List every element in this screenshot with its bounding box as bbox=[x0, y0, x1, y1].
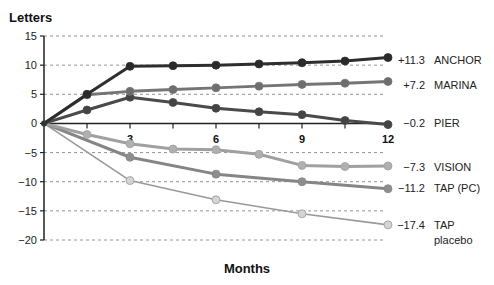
x-axis-title: Months bbox=[224, 261, 270, 276]
data-point bbox=[169, 98, 177, 106]
x-tick-label: 9 bbox=[299, 133, 305, 145]
data-point bbox=[126, 62, 134, 70]
data-point bbox=[384, 121, 392, 129]
data-point bbox=[126, 153, 134, 161]
series-marina bbox=[44, 77, 392, 123]
data-point bbox=[169, 86, 177, 94]
data-point bbox=[298, 161, 306, 169]
x-tick-label: 12 bbox=[382, 133, 394, 145]
data-point bbox=[255, 82, 263, 90]
data-point bbox=[83, 131, 91, 139]
series-end-value: −0.2 bbox=[403, 117, 425, 129]
series-end-value: −7.3 bbox=[403, 161, 425, 173]
y-tick-label: −15 bbox=[18, 205, 37, 217]
series-name-label: MARINA bbox=[434, 79, 477, 91]
data-point bbox=[341, 163, 349, 171]
data-point bbox=[298, 59, 306, 67]
x-tick-label: 6 bbox=[213, 133, 219, 145]
data-point bbox=[384, 77, 392, 85]
data-point bbox=[83, 106, 91, 114]
series-name-label: TAP (PC) bbox=[434, 182, 480, 194]
data-point bbox=[255, 60, 263, 68]
data-point bbox=[341, 117, 349, 125]
series-name-label: PIER bbox=[434, 117, 460, 129]
data-point bbox=[298, 210, 306, 218]
data-point bbox=[384, 185, 392, 193]
data-point bbox=[212, 84, 220, 92]
origin-point bbox=[41, 120, 47, 126]
y-tick-label: 15 bbox=[25, 30, 37, 42]
y-tick-label: −5 bbox=[24, 147, 37, 159]
data-point bbox=[384, 162, 392, 170]
data-point bbox=[212, 104, 220, 112]
series-end-value: −11.2 bbox=[398, 182, 425, 194]
series-name-label: TAP bbox=[434, 219, 455, 231]
y-tick-label: 10 bbox=[25, 59, 37, 71]
y-axis-ticks: 151050−5−10−15−20 bbox=[18, 30, 44, 246]
series-vision bbox=[44, 123, 392, 170]
data-point bbox=[298, 178, 306, 186]
data-point bbox=[126, 177, 134, 185]
y-tick-label: −10 bbox=[18, 176, 37, 188]
series-end-value: +7.2 bbox=[403, 79, 425, 91]
data-point bbox=[384, 54, 392, 62]
series-labels: +11.3ANCHOR+7.2MARINA−0.2PIER−7.3VISION−… bbox=[397, 54, 482, 246]
y-axis-title: Letters bbox=[9, 10, 52, 25]
series-name-label: VISION bbox=[434, 161, 471, 173]
series-end-value: −17.4 bbox=[397, 219, 425, 231]
data-point bbox=[212, 146, 220, 154]
data-point bbox=[83, 90, 91, 98]
data-point bbox=[341, 79, 349, 87]
data-point bbox=[212, 170, 220, 178]
data-point bbox=[384, 221, 392, 229]
data-point bbox=[126, 140, 134, 148]
data-point bbox=[212, 61, 220, 69]
data-point bbox=[298, 111, 306, 119]
data-point bbox=[255, 108, 263, 116]
data-point bbox=[212, 196, 220, 204]
data-point bbox=[169, 62, 177, 70]
y-tick-label: 5 bbox=[31, 88, 37, 100]
data-point bbox=[298, 80, 306, 88]
data-point bbox=[255, 150, 263, 158]
data-point bbox=[341, 57, 349, 65]
data-point bbox=[169, 145, 177, 153]
line-chart: Letters 151050−5−10−15−20 36912 +11.3ANC… bbox=[0, 0, 494, 285]
series-name-label: ANCHOR bbox=[434, 54, 482, 66]
y-tick-label: −20 bbox=[18, 234, 37, 246]
data-point bbox=[126, 87, 134, 95]
series-end-value: +11.3 bbox=[398, 54, 425, 66]
series-name-label: placebo bbox=[434, 234, 473, 246]
y-tick-label: 0 bbox=[31, 117, 37, 129]
